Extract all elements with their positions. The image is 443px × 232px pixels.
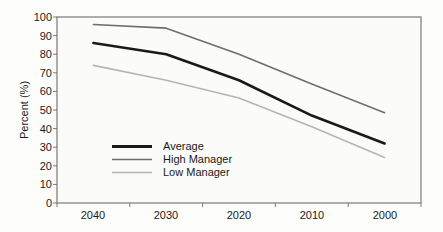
y-tick-label-40: 40 [40,123,52,135]
y-tick-label-20: 20 [40,160,52,172]
y-tick-label-90: 90 [40,30,52,42]
x-tick-label-2040: 2040 [81,209,105,221]
y-axis-title: Percent (%) [18,81,30,139]
legend-label-low-manager: Low Manager [163,166,230,178]
x-tick-label-2010: 2010 [300,209,324,221]
x-tick-label-2000: 2000 [373,209,397,221]
y-tick-label-50: 50 [40,104,52,116]
y-tick-label-0: 0 [46,197,52,209]
legend-label-average: Average [163,140,204,152]
legend-label-high-manager: High Manager [163,153,232,165]
y-tick-label-10: 10 [40,178,52,190]
x-tick-label-2020: 2020 [227,209,251,221]
y-tick-label-80: 80 [40,48,52,60]
chart-canvas: 100 90 80 70 60 50 40 30 20 10 0 2040 20… [0,0,443,232]
y-tick-label-100: 100 [34,11,52,23]
x-tick-label-2030: 2030 [154,209,178,221]
y-tick-label-30: 30 [40,141,52,153]
y-tick-label-60: 60 [40,85,52,97]
y-tick-label-70: 70 [40,67,52,79]
line-chart: 100 90 80 70 60 50 40 30 20 10 0 2040 20… [0,0,443,232]
